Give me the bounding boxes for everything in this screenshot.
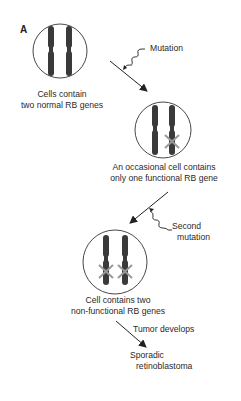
cell-both-mutated-caption: Cell contains two non-functional RB gene…	[71, 295, 165, 317]
second-mutation-label: Second mutation	[172, 221, 210, 243]
tumor-develops-label: Tumor develops	[133, 324, 194, 335]
cell-normal-caption: Cells contain two normal RB genes	[21, 89, 103, 111]
second-mutation-arrow	[130, 192, 172, 230]
cell-both-mutated	[83, 230, 147, 294]
cell-normal	[33, 24, 87, 78]
cell-one-mutated	[135, 102, 191, 158]
diagram-canvas	[0, 0, 241, 401]
outcome-label: Sporadic retinoblastoma	[130, 350, 192, 372]
cell-one-mutated-caption: An occasional cell contains only one fun…	[110, 162, 218, 184]
mutation-label: Mutation	[150, 43, 183, 54]
mutation-arrow	[110, 49, 147, 91]
panel-label: A	[20, 24, 27, 35]
